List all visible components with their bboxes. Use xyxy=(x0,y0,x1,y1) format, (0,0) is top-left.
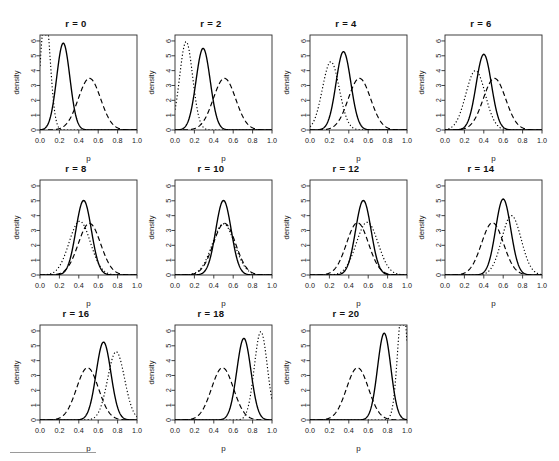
x-tick-label: 0.4 xyxy=(209,281,219,290)
plot-area: 0.00.20.40.60.81.00123456pdensity xyxy=(9,320,143,453)
x-tick-label: 0.8 xyxy=(113,136,123,145)
y-tick-label: 6 xyxy=(299,329,308,333)
density-curve-solid xyxy=(175,200,272,275)
y-tick-label: 2 xyxy=(29,98,38,102)
x-tick-label: 0.2 xyxy=(324,281,334,290)
plot-frame xyxy=(310,180,407,275)
x-axis-title: p xyxy=(491,299,496,308)
x-tick-label: 0.4 xyxy=(344,281,354,290)
plot-area: 0.00.20.40.60.81.00123456pdensity xyxy=(414,175,548,308)
y-axis-title: density xyxy=(282,360,291,384)
y-axis-title: density xyxy=(147,215,156,239)
y-tick-label: 0 xyxy=(29,418,38,422)
density-curve-dashed xyxy=(310,78,407,130)
x-axis-title: p xyxy=(221,444,226,453)
density-curve-solid xyxy=(40,43,137,130)
y-tick-label: 0 xyxy=(164,418,173,422)
x-tick-label: 0.8 xyxy=(518,136,528,145)
density-curve-solid xyxy=(175,338,272,420)
x-tick-label: 0.0 xyxy=(170,281,180,290)
plot-area: 0.00.20.40.60.81.00123456pdensity xyxy=(279,30,413,163)
panel-title: r = 18 xyxy=(144,308,278,320)
plot-frame xyxy=(40,325,137,420)
x-tick-label: 0.0 xyxy=(35,281,45,290)
panel-title: r = 4 xyxy=(279,18,413,30)
y-axis-title: density xyxy=(12,215,21,239)
y-tick-label: 6 xyxy=(299,184,308,188)
density-panel: r = 120.00.20.40.60.81.00123456pdensity xyxy=(279,163,413,308)
x-tick-label: 0.0 xyxy=(305,281,315,290)
x-tick-label: 0.8 xyxy=(248,426,258,435)
x-tick-label: 0.2 xyxy=(459,281,469,290)
y-tick-label: 5 xyxy=(434,54,443,58)
x-tick-label: 0.8 xyxy=(383,136,393,145)
x-tick-label: 1.0 xyxy=(267,281,277,290)
x-axis-title: p xyxy=(491,154,496,163)
plot-area: 0.00.20.40.60.81.00123456pdensity xyxy=(144,320,278,453)
y-tick-label: 2 xyxy=(434,98,443,102)
panel-title: r = 20 xyxy=(279,308,413,320)
x-tick-label: 0.6 xyxy=(93,281,103,290)
x-tick-label: 1.0 xyxy=(267,426,277,435)
plot-frame xyxy=(175,180,272,275)
panel-title: r = 2 xyxy=(144,18,278,30)
y-tick-label: 3 xyxy=(164,373,173,377)
y-tick-label: 1 xyxy=(299,403,308,407)
y-tick-label: 2 xyxy=(164,243,173,247)
y-tick-label: 0 xyxy=(164,128,173,132)
y-tick-label: 2 xyxy=(29,243,38,247)
x-tick-label: 0.6 xyxy=(498,281,508,290)
x-tick-label: 0.2 xyxy=(189,426,199,435)
x-tick-label: 0.4 xyxy=(74,136,84,145)
y-tick-label: 3 xyxy=(164,228,173,232)
x-tick-label: 0.0 xyxy=(440,136,450,145)
x-tick-label: 0.8 xyxy=(113,281,123,290)
y-tick-label: 1 xyxy=(29,113,38,117)
density-curve-dashed xyxy=(175,78,272,130)
footer-rule xyxy=(10,452,96,453)
x-tick-label: 0.8 xyxy=(518,281,528,290)
density-curve-dashed xyxy=(310,223,407,275)
density-curve-dotted xyxy=(310,222,407,275)
plot-frame xyxy=(310,35,407,130)
x-tick-label: 1.0 xyxy=(132,136,142,145)
x-tick-label: 0.0 xyxy=(305,136,315,145)
y-tick-label: 4 xyxy=(29,69,38,73)
y-axis-title: density xyxy=(147,70,156,94)
y-axis-title: density xyxy=(12,360,21,384)
x-tick-label: 0.2 xyxy=(54,136,64,145)
density-curve-dotted xyxy=(175,224,272,275)
x-axis-title: p xyxy=(86,154,91,163)
density-panel: r = 140.00.20.40.60.81.00123456pdensity xyxy=(414,163,548,308)
plot-frame xyxy=(40,35,137,130)
x-tick-label: 0.2 xyxy=(189,281,199,290)
x-tick-label: 0.8 xyxy=(383,426,393,435)
x-tick-label: 0.4 xyxy=(479,281,489,290)
y-tick-label: 2 xyxy=(299,243,308,247)
y-tick-label: 1 xyxy=(434,113,443,117)
y-tick-label: 4 xyxy=(164,359,173,363)
panel-title: r = 8 xyxy=(9,163,143,175)
y-tick-label: 5 xyxy=(29,344,38,348)
x-tick-label: 0.6 xyxy=(93,426,103,435)
x-tick-label: 0.2 xyxy=(54,281,64,290)
density-panel: r = 00.00.20.40.60.81.00123456pdensity xyxy=(9,18,143,163)
y-tick-label: 6 xyxy=(299,39,308,43)
density-curve-solid xyxy=(40,342,137,420)
density-curve-dashed xyxy=(40,223,137,275)
y-tick-label: 2 xyxy=(29,388,38,392)
x-tick-label: 0.6 xyxy=(363,281,373,290)
x-tick-label: 1.0 xyxy=(132,281,142,290)
x-tick-label: 1.0 xyxy=(402,136,412,145)
y-tick-label: 2 xyxy=(299,98,308,102)
x-tick-label: 0.0 xyxy=(170,426,180,435)
y-tick-label: 5 xyxy=(164,54,173,58)
x-tick-label: 0.0 xyxy=(35,426,45,435)
density-panel: r = 200.00.20.40.60.81.00123456pdensity xyxy=(279,308,413,453)
density-curve-dashed xyxy=(40,78,137,130)
y-axis-title: density xyxy=(147,360,156,384)
y-tick-label: 6 xyxy=(434,39,443,43)
density-curve-dotted xyxy=(310,325,407,420)
y-tick-label: 3 xyxy=(299,373,308,377)
y-tick-label: 5 xyxy=(164,199,173,203)
